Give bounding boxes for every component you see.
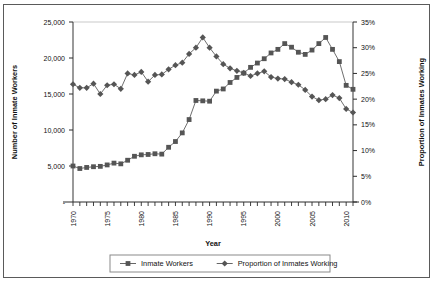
series-marker-square: [153, 151, 158, 156]
series-marker-diamond: [282, 76, 288, 82]
series-marker-square: [351, 87, 356, 92]
x-axis-title: Year: [205, 239, 221, 248]
series-marker-square: [275, 47, 280, 52]
series-marker-square: [310, 48, 315, 53]
legend-marker-square: [126, 261, 131, 266]
series-marker-square: [132, 154, 137, 159]
left-axis-tick-label: 10,000: [44, 127, 66, 134]
series-marker-diamond: [84, 85, 90, 91]
series-marker-square: [228, 80, 233, 85]
series-marker-square: [296, 50, 301, 55]
series-marker-square: [303, 52, 308, 57]
x-axis-tick-label: 1975: [104, 211, 111, 227]
series-marker-square: [98, 164, 103, 169]
x-axis-tick-label: 2000: [274, 211, 281, 227]
series-marker-diamond: [70, 81, 76, 87]
series-marker-square: [282, 41, 287, 46]
x-axis-tick-label: 1990: [206, 211, 213, 227]
series-marker-diamond: [288, 79, 294, 85]
series-marker-square: [207, 99, 212, 104]
series-marker-diamond: [343, 106, 349, 112]
series-marker-diamond: [316, 97, 322, 103]
series-marker-square: [330, 47, 335, 52]
series-marker-square: [269, 51, 274, 56]
x-axis-tick-label: 1980: [138, 211, 145, 227]
left-axis-tick-label: 25,000: [44, 19, 66, 26]
series-marker-square: [173, 139, 178, 144]
x-axis-tick-label: 1985: [172, 211, 179, 227]
series-proportion-working: [70, 34, 356, 115]
series-marker-diamond: [159, 71, 165, 77]
chart-plot: -5,00010,00015,00020,00025,0000%5%10%15%…: [0, 0, 436, 283]
series-marker-diamond: [125, 70, 131, 76]
right-axis-tick-label: 35%: [361, 19, 375, 26]
x-axis-tick-label: 2005: [309, 211, 316, 227]
series-marker-diamond: [131, 72, 137, 78]
series-marker-square: [344, 83, 349, 88]
series-marker-diamond: [90, 81, 96, 87]
series-marker-square: [187, 117, 192, 122]
series-marker-square: [255, 61, 260, 66]
legend-label: Proportion of Inmates Working: [238, 259, 338, 268]
series-marker-square: [159, 152, 164, 157]
left-axis-tick-label: 5,000: [47, 163, 65, 170]
series-marker-square: [91, 164, 96, 169]
series-marker-diamond: [77, 85, 83, 91]
series-marker-square: [84, 165, 89, 170]
left-axis-tick-label: 20,000: [44, 55, 66, 62]
x-axis-tick-label: 1970: [70, 211, 77, 227]
series-marker-square: [139, 152, 144, 157]
right-axis-tick-label: 10%: [361, 147, 375, 154]
series-marker-square: [112, 161, 117, 166]
right-axis-title: Proportion of Inmates Working: [417, 57, 426, 166]
series-inmate-workers: [71, 35, 356, 171]
series-marker-square: [262, 56, 267, 61]
series-marker-diamond: [118, 86, 124, 92]
series-marker-square: [166, 145, 171, 150]
left-axis-tick-label: 15,000: [44, 91, 66, 98]
series-marker-diamond: [247, 73, 253, 79]
series-marker-square: [77, 166, 82, 171]
series-marker-diamond: [138, 69, 144, 75]
series-marker-square: [194, 98, 199, 103]
series-marker-square: [118, 161, 123, 166]
series-marker-square: [221, 87, 226, 92]
series-marker-diamond: [227, 65, 233, 71]
series-marker-square: [71, 164, 76, 169]
series-marker-square: [289, 45, 294, 50]
x-axis-tick-label: 2010: [343, 211, 350, 227]
series-marker-square: [337, 59, 342, 64]
series-marker-diamond: [336, 95, 342, 101]
left-axis-title: Number of Inmate Workers: [10, 65, 19, 159]
series-marker-diamond: [172, 62, 178, 68]
legend-label: Inmate Workers: [141, 259, 193, 268]
series-marker-diamond: [111, 81, 117, 87]
series-marker-square: [235, 75, 240, 80]
series-marker-diamond: [275, 75, 281, 81]
x-axis-tick-label: 1995: [240, 211, 247, 227]
right-axis-tick-label: 0%: [361, 199, 371, 206]
right-axis-tick-label: 20%: [361, 96, 375, 103]
series-marker-diamond: [166, 66, 172, 72]
series-marker-square: [323, 35, 328, 40]
series-marker-diamond: [254, 70, 260, 76]
series-marker-square: [200, 98, 205, 103]
series-marker-square: [105, 163, 110, 168]
series-marker-square: [146, 152, 151, 157]
series-line: [73, 37, 353, 168]
series-marker-square: [180, 130, 185, 135]
series-marker-diamond: [350, 109, 356, 115]
series-marker-square: [125, 158, 130, 163]
right-axis-tick-label: 25%: [361, 70, 375, 77]
series-marker-square: [316, 41, 321, 46]
series-marker-square: [248, 65, 253, 70]
series-marker-diamond: [329, 92, 335, 98]
series-marker-diamond: [295, 82, 301, 88]
right-axis-tick-label: 30%: [361, 44, 375, 51]
chart-container: -5,00010,00015,00020,00025,0000%5%10%15%…: [0, 0, 436, 283]
series-marker-diamond: [200, 34, 206, 40]
right-axis-tick-label: 5%: [361, 173, 371, 180]
series-marker-diamond: [234, 68, 240, 74]
right-axis-tick-label: 15%: [361, 121, 375, 128]
series-marker-square: [214, 89, 219, 94]
